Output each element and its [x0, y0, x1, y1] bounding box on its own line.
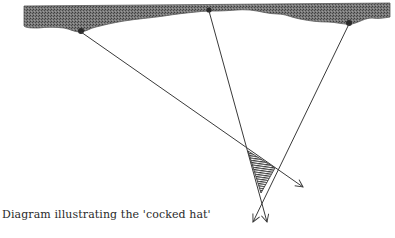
bearing-lines: [81, 11, 349, 222]
bearing-line-2: [209, 11, 267, 222]
diagram-caption: Diagram illustrating the 'cocked hat': [2, 208, 211, 221]
bearing-line-3: [253, 24, 349, 222]
bearing-line-1: [81, 32, 303, 187]
cocked-hat-diagram: [0, 0, 395, 238]
coastline-shape: [24, 3, 390, 32]
cocked-hat-triangle: [248, 151, 275, 193]
